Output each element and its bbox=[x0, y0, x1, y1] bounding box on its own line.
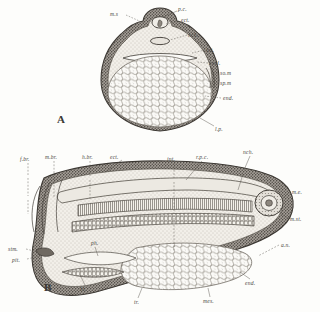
figure-b-label-15: mes. bbox=[203, 299, 214, 305]
figure-a-label-1: p.c. bbox=[178, 7, 187, 13]
figure-a-label-2: ect. bbox=[181, 18, 190, 24]
figure-a-drawing bbox=[101, 8, 221, 131]
figure-a-label-7: sp.m bbox=[220, 81, 231, 87]
figure-a-label-9: l.p. bbox=[215, 127, 223, 133]
figure-a-label-0: m.s bbox=[110, 12, 118, 18]
figure-a-label-5: coel. bbox=[209, 61, 221, 67]
figure-b-label-5: r.p.c. bbox=[196, 155, 208, 161]
figure-b-label-3: ect. bbox=[110, 155, 119, 161]
figure-b-label-1: m.br. bbox=[45, 155, 57, 161]
figure-a-letter: A bbox=[57, 113, 65, 125]
figure-a-label-8: end. bbox=[223, 96, 233, 102]
figure-b-drawing bbox=[26, 156, 293, 298]
figure-b-label-14: tr. bbox=[134, 300, 139, 306]
figure-a-neural-canal bbox=[158, 20, 162, 27]
figure-a-label-3: nch. bbox=[188, 33, 198, 39]
figure-b-label-4: int. bbox=[167, 157, 175, 163]
figure-a-label-6: so.m bbox=[220, 71, 231, 77]
figure-b-label-0: f.br. bbox=[20, 157, 30, 163]
figure-b-label-2: h.br. bbox=[82, 155, 93, 161]
figure-b-label-9: a.n. bbox=[281, 243, 290, 249]
figure-a-notochord bbox=[151, 37, 170, 44]
figure-b-label-10: stm. bbox=[8, 247, 18, 253]
figure-b-label-6: nch. bbox=[243, 150, 253, 156]
figure-b-label-12: ph. bbox=[91, 241, 99, 247]
figure-b-yolk-mass bbox=[121, 243, 252, 290]
illustration-plate: A B m.sp.c.ect.nch.int.coel.so.msp.mend.… bbox=[0, 0, 320, 312]
figure-b-label-13: ht. bbox=[80, 287, 86, 293]
figure-b-label-8: m.st. bbox=[290, 217, 302, 223]
figure-b-letter: B bbox=[44, 281, 51, 293]
figure-a-yolk-mass bbox=[108, 56, 212, 127]
figure-b-label-11: pit. bbox=[12, 258, 20, 264]
figure-b-label-16: end. bbox=[245, 281, 255, 287]
figure-a-label-4: int. bbox=[206, 48, 214, 54]
figure-b-posterior-coil bbox=[255, 190, 283, 216]
figure-b-label-7: m.e. bbox=[292, 190, 302, 196]
